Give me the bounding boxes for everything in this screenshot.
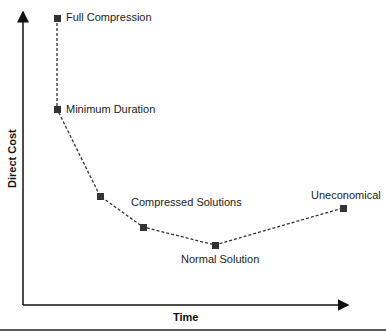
label-minimum-duration: Minimum Duration xyxy=(66,103,155,115)
label-full-compression: Full Compression xyxy=(66,11,152,23)
label-normal-solution: Normal Solution xyxy=(181,253,259,265)
label-uneconomical: Uneconomical xyxy=(311,189,381,201)
y-axis-label: Direct Cost xyxy=(6,129,18,188)
cost-curve xyxy=(57,18,343,245)
data-markers xyxy=(54,15,347,249)
x-axis-label: Time xyxy=(173,311,198,323)
chart-canvas xyxy=(0,0,386,333)
label-compressed-solutions: Compressed Solutions xyxy=(131,196,242,208)
